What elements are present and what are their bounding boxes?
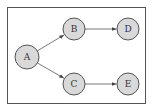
node-label: A [23, 52, 31, 62]
edge-a-b [37, 35, 64, 51]
node-b: B [63, 18, 85, 40]
node-d: D [117, 18, 139, 40]
diagram-canvas: ABCDE [0, 0, 152, 109]
graph-svg: ABCDE [0, 0, 152, 109]
node-label: B [71, 24, 78, 34]
node-a: A [15, 45, 39, 69]
node-c: C [63, 73, 85, 95]
node-label: C [71, 79, 78, 89]
edge-a-c [37, 63, 64, 78]
node-label: D [124, 24, 131, 34]
node-e: E [117, 73, 139, 95]
node-label: E [125, 79, 132, 89]
nodes-group: ABCDE [15, 18, 139, 95]
